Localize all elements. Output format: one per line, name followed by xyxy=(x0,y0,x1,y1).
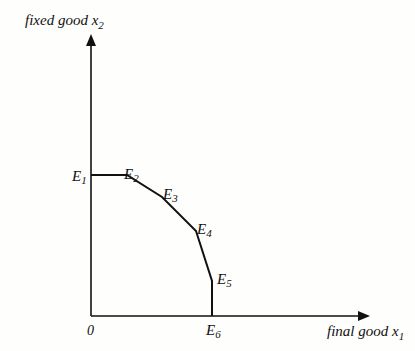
y-axis-arrow-icon xyxy=(86,34,96,46)
x-axis-arrow-icon xyxy=(358,311,370,321)
ppf-diagram: fixed good x2 final good x1 0 E1 E2 E3 E… xyxy=(0,0,415,351)
point-label-e1: E1 xyxy=(71,168,87,186)
y-axis-label: fixed good x2 xyxy=(25,12,104,31)
origin-label: 0 xyxy=(87,323,94,338)
point-label-e4: E4 xyxy=(196,221,212,239)
x-axis-label: final good x1 xyxy=(327,323,404,342)
frontier-line xyxy=(91,175,212,316)
point-label-e2: E2 xyxy=(123,166,139,184)
point-label-e6: E6 xyxy=(205,322,221,340)
point-label-e5: E5 xyxy=(216,271,232,289)
point-label-e3: E3 xyxy=(162,186,178,204)
